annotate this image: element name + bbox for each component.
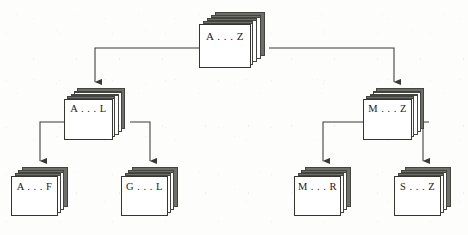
tree-node-m-r[interactable]: M . . . R — [294, 167, 352, 217]
tree-node-a-l[interactable]: A . . . L — [64, 88, 126, 140]
diagram-canvas: A . . . Z A . . . L M . . . Z — [0, 0, 468, 235]
edge-al-to-gl — [130, 122, 150, 161]
node-label: A . . . Z — [199, 30, 251, 42]
tree-node-a-f[interactable]: A . . . F — [11, 167, 69, 217]
node-label: S . . . Z — [394, 181, 441, 192]
tree-node-root[interactable]: A . . . Z — [199, 12, 265, 68]
node-label: G . . . L — [121, 181, 168, 192]
edge-mz-to-mr — [323, 122, 363, 161]
edge-al-to-af — [40, 122, 64, 161]
edge-root-to-mz — [269, 48, 394, 82]
node-label: A . . . L — [64, 103, 113, 114]
node-label: M . . . R — [294, 181, 341, 192]
edge-root-to-al — [95, 48, 199, 82]
node-label: M . . . Z — [363, 103, 412, 114]
tree-node-s-z[interactable]: S . . . Z — [394, 167, 452, 217]
tree-node-g-l[interactable]: G . . . L — [121, 167, 179, 217]
tree-node-m-z[interactable]: M . . . Z — [363, 88, 425, 140]
node-label: A . . . F — [11, 181, 58, 192]
